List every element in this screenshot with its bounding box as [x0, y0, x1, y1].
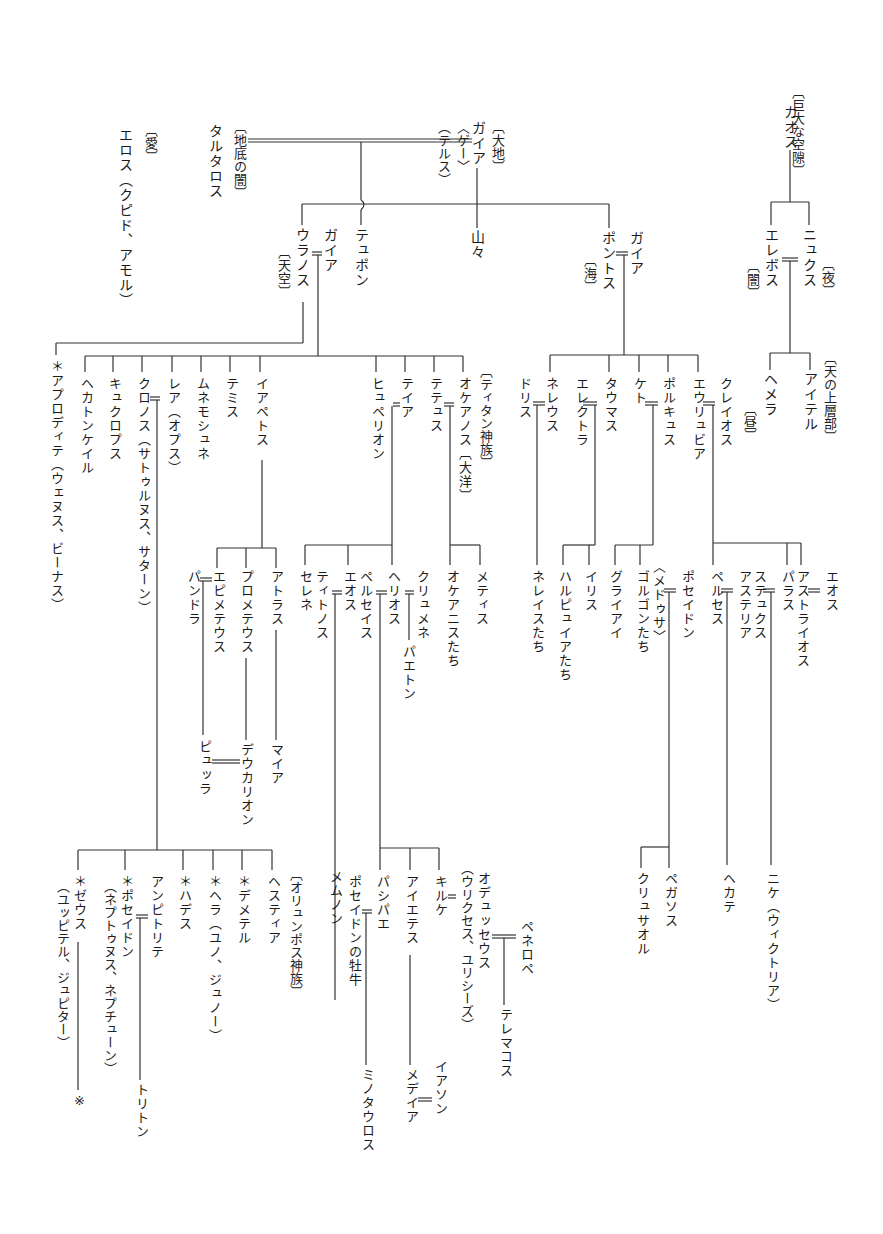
iason-node: イアソン	[432, 1060, 448, 1116]
erebos-node: エレボス	[763, 228, 779, 288]
minotauros-node: ミノタウロス	[359, 1068, 375, 1152]
gaia-gloss: 〔大地〕	[490, 121, 504, 173]
hemera-node: ヘメラ	[762, 372, 778, 417]
doris-node: ドリス	[516, 377, 532, 419]
atlas-node: アトラス	[268, 570, 284, 626]
pandora-node: パンドラ	[185, 570, 201, 626]
medeia-node: メデイア	[403, 1068, 419, 1124]
theia-node: テイア	[398, 377, 414, 419]
memnon-node: メムノン	[327, 870, 343, 926]
odysseus-node: オデュッセウス	[475, 872, 491, 970]
zeus-alt-names: （ユッピテル、ジュピター）	[55, 880, 69, 1049]
klymene-node: クリュメネ	[414, 570, 430, 640]
selene-node: セレネ	[297, 570, 313, 612]
amphitrite-node: アンピトリテ	[148, 875, 164, 959]
deukalion-node: デウカリオン	[238, 743, 254, 827]
gaia-latin-name: （テルス）	[436, 121, 450, 186]
asteria-node: アステリア	[736, 570, 752, 640]
harpyiai-node: ハルピュイアたち	[556, 570, 572, 682]
styx-node: ステュクス	[751, 570, 767, 640]
chrysaor-node: クリュサオル	[634, 872, 650, 956]
pontos-gloss: 〔海〕	[582, 254, 596, 293]
pontos-node: ポントス	[600, 231, 616, 291]
hemera-gloss: 〔昼〕	[742, 403, 756, 442]
gaia-alt-name: 〈ゲー〉	[455, 121, 469, 173]
eos-node-hyperion: エオス	[341, 570, 357, 612]
gaia-node: ガイア	[470, 121, 486, 166]
olympians-gloss: 〔オリュンポス神族〕	[288, 868, 302, 998]
gaia-uranos-consort: ガイア	[322, 228, 338, 273]
nereus-node: ネレウス	[543, 377, 559, 433]
aither-node: アイテル	[802, 372, 818, 432]
elektra-node: エレクトラ	[573, 377, 589, 447]
phaethon-node: パエトン	[400, 645, 416, 701]
zeus-node: ＊ゼウス	[71, 875, 87, 931]
uranos-node: ウラノス	[294, 228, 310, 288]
nyx-gloss: 〔夜〕	[820, 258, 834, 297]
aither-gloss: 〔天の上層部〕	[822, 352, 836, 443]
eos-node-kreios: エオス	[823, 570, 839, 612]
okeanides-node: オケアニスたち	[444, 570, 460, 668]
okeanos-node: オケアノス〔大洋〕	[456, 377, 472, 503]
telemachos-node: テレマコス	[497, 1008, 513, 1078]
poseidon-alt-names: （ネプトゥヌス、ネプチューン）	[102, 880, 116, 1075]
titans-gloss: 〔ティタン神族〕	[478, 365, 492, 469]
triton-node: トリトン	[133, 1083, 149, 1139]
mountains-node: 山々	[469, 230, 485, 260]
tethys-node: テテュス	[427, 377, 443, 433]
poseidon-medusa-consort: ポセイドン	[679, 570, 695, 640]
iapetos-node: イアペトス	[253, 377, 269, 447]
nereides-node: ネレイスたち	[529, 570, 545, 654]
typhon-node: テュポン	[353, 228, 369, 288]
graiai-node: グライアイ	[607, 570, 623, 640]
pasiphae-node: パシパエ	[374, 875, 390, 931]
tartaros-gloss: 〔地底の闇〕	[232, 121, 246, 199]
thaumas-node: タウマス	[602, 377, 618, 433]
odysseus-alt-names: （ウリクセス、ユリシーズ）	[459, 862, 473, 1031]
iris-node: イリス	[582, 570, 598, 612]
kronos-node: クロノス（サトゥルヌス、サターン）	[135, 377, 151, 615]
perseis-node: ペルセイス	[357, 570, 373, 640]
helios-node: ヘリオス	[385, 570, 401, 626]
pegasos-node: ペガソス	[662, 872, 678, 928]
erebos-gloss: 〔闇〕	[745, 260, 759, 299]
hyperion-node: ヒュペリオン	[369, 377, 385, 461]
gorgons-node: ゴルゴンたち	[634, 570, 650, 654]
gaia-pontos-consort: ガイア	[628, 231, 644, 276]
aietes-node: アイエテス	[403, 875, 419, 945]
pallas-node: パラス	[779, 570, 795, 612]
poseidon-node: ＊ポセイドン	[118, 875, 134, 959]
metis-node: メティス	[473, 570, 489, 626]
eurybia-node: エウリュビア	[690, 377, 706, 461]
chaos-node: カオス	[782, 105, 798, 150]
aphrodite-node: ＊アプロディテ（ウェヌス、ビーナス）	[48, 360, 64, 612]
nike-node: ニケ（ウィクトリア）	[764, 872, 780, 1012]
hades-node: ＊ハデス	[176, 875, 192, 931]
phorkys-node: ポルキュス	[660, 377, 676, 447]
medusa-node: 〈メドゥサ〉	[650, 560, 666, 644]
prometheus-node: プロメテウス	[238, 570, 254, 654]
mnemosyne-node: ムネモシュネ	[194, 377, 210, 461]
nyx-node: ニュクス	[801, 228, 817, 288]
kirke-node: キルケ	[432, 875, 448, 917]
pyrrha-node: ピュッラ	[196, 740, 212, 796]
keto-node: ケト	[631, 377, 647, 405]
rhea-node: レア（オプス）	[165, 377, 181, 475]
kyklopes-node: キュクロプス	[106, 377, 122, 461]
zeus-note-mark: ※	[71, 1093, 87, 1109]
hestia-node: ヘスティア	[265, 875, 281, 945]
astraios-node: アストライオス	[794, 570, 810, 668]
perses-node: ペルセス	[708, 570, 724, 626]
maia-node: マイア	[268, 743, 284, 785]
poseidon-bull-node: ポセイドンの牡牛	[346, 875, 362, 987]
kreios-node: クレイオス	[717, 377, 733, 447]
penelope-node: ペネロペ	[518, 920, 534, 976]
tartaros-node: タルタロス	[207, 124, 223, 199]
demeter-node: ＊デメテル	[235, 875, 251, 945]
hekate-node: ヘカテ	[720, 872, 736, 914]
epimetheus-node: エピメテウス	[210, 570, 226, 654]
eros-node: エロス（クピド、アモル）	[117, 128, 133, 308]
themis-node: テミス	[223, 377, 239, 419]
hera-node: ＊ヘラ（ユノ、ジュノー）	[206, 875, 222, 1043]
eros-gloss: 〔愛〕	[143, 124, 157, 163]
